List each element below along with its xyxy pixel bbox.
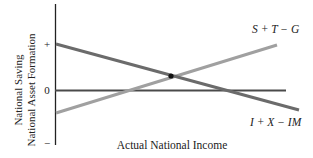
line-i-x-im bbox=[56, 44, 299, 110]
x-axis-label: Actual National Income bbox=[117, 139, 228, 151]
y-label-line1: National Saving bbox=[12, 54, 24, 126]
series-label-s-t-g: S + T − G bbox=[252, 23, 300, 35]
chart: National Saving National Asset Formation… bbox=[0, 0, 313, 158]
y-axis-label: National Saving National Asset Formation bbox=[12, 33, 37, 147]
equilibrium-point bbox=[168, 73, 173, 78]
y-tick-minus: − bbox=[44, 137, 50, 149]
series-label-i-x-im: I + X − IM bbox=[249, 116, 303, 128]
line-s-t-g bbox=[56, 45, 277, 113]
y-label-line2: National Asset Formation bbox=[25, 33, 37, 147]
y-tick-plus: + bbox=[44, 38, 50, 50]
y-tick-zero: 0 bbox=[44, 84, 50, 96]
